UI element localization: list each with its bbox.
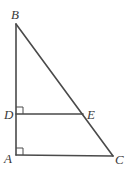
label-B: B — [11, 7, 19, 22]
label-D: D — [3, 107, 14, 122]
segment-AC — [16, 155, 113, 156]
label-C: C — [115, 152, 124, 167]
label-E: E — [86, 107, 95, 122]
right-angle-mark-A — [16, 148, 23, 155]
right-angle-mark-D — [16, 107, 23, 114]
segment-BC — [16, 24, 113, 156]
label-A: A — [3, 151, 12, 166]
triangle-diagram: B D E A C — [0, 0, 131, 173]
